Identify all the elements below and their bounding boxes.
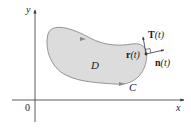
normal-label: n(t) xyxy=(155,57,171,69)
y-axis-label: y xyxy=(25,4,31,15)
point-label: r(t) xyxy=(126,49,141,61)
x-axis-label: x xyxy=(175,102,181,113)
region-label: D xyxy=(90,59,99,71)
tangent-label: T(t) xyxy=(148,29,165,41)
curve-label: C xyxy=(129,81,137,93)
normal-vector xyxy=(146,50,164,54)
diagram-canvas: y x 0 D C r(t) T(t) n(t) xyxy=(0,0,191,128)
origin-label: 0 xyxy=(25,102,30,113)
